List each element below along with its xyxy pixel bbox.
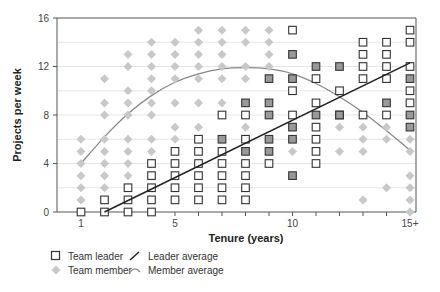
team-leader-point bbox=[406, 26, 414, 34]
team-leader-point bbox=[124, 208, 132, 216]
team-leader-point bbox=[383, 38, 391, 46]
team-leader-point bbox=[359, 111, 367, 119]
team-member-point bbox=[124, 147, 133, 156]
team-member-point bbox=[77, 171, 86, 180]
team-member-point bbox=[147, 38, 156, 47]
team-member-point bbox=[194, 62, 203, 71]
y-tick-label: 16 bbox=[38, 13, 50, 24]
team-leader-point bbox=[171, 160, 179, 168]
team-member-point bbox=[171, 98, 180, 107]
team-leader-point bbox=[406, 99, 414, 107]
team-member-point bbox=[77, 183, 86, 192]
team-member-point bbox=[124, 135, 133, 144]
team-leader-highlighted-point bbox=[289, 75, 297, 83]
y-tick-label: 8 bbox=[43, 110, 49, 121]
team-leader-point bbox=[289, 26, 297, 34]
team-member-point bbox=[218, 26, 227, 35]
x-tick-label: 10 bbox=[287, 218, 299, 229]
team-member-point bbox=[218, 50, 227, 59]
team-leader-point bbox=[218, 196, 226, 204]
team-leader-point bbox=[359, 51, 367, 59]
team-leader-point bbox=[242, 196, 250, 204]
team-member-point bbox=[218, 74, 227, 83]
team-leader-point bbox=[218, 111, 226, 119]
team-leader-highlighted-point bbox=[383, 99, 391, 107]
team-member-point bbox=[147, 74, 156, 83]
team-member-point bbox=[241, 38, 250, 47]
team-member-point bbox=[124, 86, 133, 95]
team-member-point bbox=[100, 147, 109, 156]
x-tick-label: 5 bbox=[172, 218, 178, 229]
team-leader-point bbox=[312, 148, 320, 156]
team-member-point bbox=[100, 183, 109, 192]
team-leader-highlighted-point bbox=[312, 111, 320, 119]
team-member-point bbox=[265, 38, 274, 47]
team-member-point bbox=[194, 74, 203, 83]
team-leader-highlighted-point bbox=[406, 123, 414, 131]
team-member-point bbox=[147, 147, 156, 156]
team-leader-point bbox=[312, 160, 320, 168]
team-leader-point bbox=[195, 184, 203, 192]
team-leader-point bbox=[289, 87, 297, 95]
team-leader-point bbox=[289, 111, 297, 119]
team-leader-point bbox=[148, 196, 156, 204]
team-member-point bbox=[382, 135, 391, 144]
team-leader-highlighted-point bbox=[265, 75, 273, 83]
team-member-point bbox=[406, 208, 415, 217]
team-member-point bbox=[382, 123, 391, 132]
team-member-point bbox=[265, 26, 274, 35]
team-member-point bbox=[171, 62, 180, 71]
x-tick-label: 1 bbox=[78, 218, 84, 229]
team-leader-point bbox=[359, 75, 367, 83]
team-leader-highlighted-point bbox=[242, 148, 250, 156]
team-member-point bbox=[241, 62, 250, 71]
team-leader-point bbox=[312, 99, 320, 107]
team-leader-point bbox=[195, 172, 203, 180]
team-member-point bbox=[265, 50, 274, 59]
legend-label: Team member bbox=[68, 265, 132, 276]
team-member-point bbox=[288, 147, 297, 156]
team-member-point bbox=[194, 50, 203, 59]
team-leader-point bbox=[218, 160, 226, 168]
team-member-point bbox=[194, 98, 203, 107]
team-leader-point bbox=[242, 172, 250, 180]
team-leader-highlighted-point bbox=[406, 75, 414, 83]
team-leader-point bbox=[171, 184, 179, 192]
team-leader-point bbox=[195, 135, 203, 143]
team-member-point bbox=[406, 195, 415, 204]
team-member-point bbox=[171, 123, 180, 132]
square-outline-icon bbox=[50, 250, 62, 262]
team-leader-highlighted-point bbox=[265, 148, 273, 156]
team-leader-point bbox=[383, 111, 391, 119]
team-leader-highlighted-point bbox=[289, 123, 297, 131]
team-member-point bbox=[100, 159, 109, 168]
team-member-point bbox=[147, 50, 156, 59]
grey-diamond-icon bbox=[50, 264, 62, 276]
team-member-point bbox=[100, 111, 109, 120]
team-leader-highlighted-point bbox=[242, 99, 250, 107]
team-leader-point bbox=[383, 63, 391, 71]
team-leader-point bbox=[148, 172, 156, 180]
team-leader-highlighted-point bbox=[336, 63, 344, 71]
scatter-chart: 0481216151015+ Projects per week Tenure … bbox=[0, 0, 440, 250]
team-leader-highlighted-point bbox=[312, 63, 320, 71]
team-member-point bbox=[147, 111, 156, 120]
legend-item-team-leader: Team leader bbox=[50, 250, 123, 262]
team-member-point bbox=[194, 38, 203, 47]
team-leader-point bbox=[383, 51, 391, 59]
team-leader-point bbox=[265, 160, 273, 168]
y-tick-label: 12 bbox=[38, 61, 50, 72]
team-member-point bbox=[194, 26, 203, 35]
team-leader-highlighted-point bbox=[265, 99, 273, 107]
team-member-point bbox=[147, 135, 156, 144]
team-leader-point bbox=[124, 184, 132, 192]
team-leader-point bbox=[242, 184, 250, 192]
team-member-point bbox=[194, 123, 203, 132]
team-member-point bbox=[359, 195, 368, 204]
y-tick-label: 0 bbox=[43, 207, 49, 218]
team-member-point bbox=[77, 135, 86, 144]
team-member-point bbox=[359, 123, 368, 132]
team-member-point bbox=[171, 135, 180, 144]
team-member-point bbox=[406, 135, 415, 144]
team-leader-point bbox=[359, 38, 367, 46]
